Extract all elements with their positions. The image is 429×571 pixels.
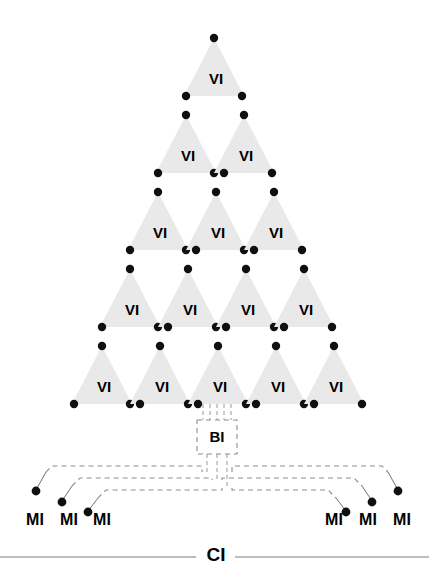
vertex-dot-right xyxy=(298,246,306,254)
bi-label: BI xyxy=(210,428,225,445)
vertex-dot-apex xyxy=(184,265,192,273)
triangle-shape xyxy=(158,269,218,327)
vi-triangle-label: VI xyxy=(329,378,343,395)
vi-triangle[interactable]: VI xyxy=(304,342,366,408)
vertex-dot-apex xyxy=(242,265,250,273)
mi-node[interactable]: MI xyxy=(84,508,111,529)
vi-triangle[interactable]: VI xyxy=(158,265,220,331)
vi-triangle[interactable]: VI xyxy=(70,342,134,408)
vi-triangle[interactable]: VI xyxy=(126,188,190,254)
mi-label: MI xyxy=(393,511,411,528)
vi-triangle-label: VI xyxy=(181,147,195,164)
mi-node[interactable]: MI xyxy=(58,498,78,529)
vi-triangle-label: VI xyxy=(183,301,197,318)
vertex-dot-left xyxy=(252,400,260,408)
mi-node[interactable]: MI xyxy=(325,508,350,529)
triangle-shape xyxy=(156,115,216,173)
vertex-dot-apex xyxy=(270,188,278,196)
vi-to-bi-stubs xyxy=(203,404,231,420)
hierarchy-diagram-canvas: VI VI VI xyxy=(0,0,429,571)
vi-triangle-label: VI xyxy=(239,147,253,164)
vi-pyramid: VI VI VI xyxy=(70,34,366,408)
bus-route-middle-left xyxy=(72,478,212,486)
mi-dot xyxy=(32,487,41,496)
vi-triangle[interactable]: VI xyxy=(246,342,308,408)
bus-route-middle-right xyxy=(222,478,362,486)
mi-node[interactable]: MI xyxy=(393,487,411,529)
vertex-dot-apex xyxy=(126,265,134,273)
vi-triangle[interactable]: VI xyxy=(244,188,306,254)
vertex-dot-left xyxy=(220,169,228,177)
vi-triangle[interactable]: VI xyxy=(182,34,246,100)
triangle-shape xyxy=(188,346,248,404)
vertex-dot-left xyxy=(182,92,190,100)
mi-label: MI xyxy=(325,511,343,528)
vi-triangle-label: VI xyxy=(153,224,167,241)
vi-triangle[interactable]: VI xyxy=(154,111,218,177)
vertex-dot-apex xyxy=(240,111,248,119)
vertex-dot-left xyxy=(310,400,318,408)
mi-node[interactable]: MI xyxy=(26,487,44,529)
vi-triangle[interactable]: VI xyxy=(188,342,250,408)
vertex-dot-apex xyxy=(214,342,222,350)
mi-dot xyxy=(368,498,377,507)
vi-triangle-label: VI xyxy=(209,70,223,87)
vertex-dot-left xyxy=(280,323,288,331)
vi-triangle[interactable]: VI xyxy=(216,265,278,331)
vertex-dot-left xyxy=(250,246,258,254)
vi-triangle[interactable]: VI xyxy=(130,342,192,408)
vertex-dot-apex xyxy=(210,34,218,42)
vertex-dot-left xyxy=(222,323,230,331)
mi-node[interactable]: MI xyxy=(359,498,377,529)
triangle-shape xyxy=(244,192,304,250)
vertex-dot-left xyxy=(154,169,162,177)
vertex-dot-right xyxy=(268,169,276,177)
vi-triangle[interactable]: VI xyxy=(274,265,336,331)
vertex-dot-right xyxy=(358,400,366,408)
vertex-dot-apex xyxy=(330,342,338,350)
vertex-dot-left xyxy=(70,400,78,408)
vertex-dot-apex xyxy=(272,342,280,350)
vi-triangle-label: VI xyxy=(241,301,255,318)
triangle-shape xyxy=(72,346,132,404)
vi-triangle[interactable]: VI xyxy=(98,265,162,331)
triangle-shape xyxy=(216,269,276,327)
vertex-dot-left xyxy=(164,323,172,331)
triangle-shape xyxy=(186,192,246,250)
ci-baseline: CI xyxy=(0,544,429,565)
vertex-dot-apex xyxy=(300,265,308,273)
ci-label: CI xyxy=(207,544,226,565)
mi-group-left: MI MI MI xyxy=(26,487,111,529)
mi-label: MI xyxy=(60,511,78,528)
vi-triangle[interactable]: VI xyxy=(186,188,248,254)
vi-triangle-label: VI xyxy=(271,378,285,395)
pyramid-row-3: VI VI VI xyxy=(126,188,306,254)
triangle-shape xyxy=(246,346,306,404)
mi-label: MI xyxy=(26,511,44,528)
vertex-dot-apex xyxy=(154,188,162,196)
bi-to-bus-stubs xyxy=(207,454,227,488)
pyramid-row-1: VI xyxy=(182,34,246,100)
pyramid-row-2: VI VI xyxy=(154,111,276,177)
vertex-dot-apex xyxy=(156,342,164,350)
vertex-dot-right xyxy=(328,323,336,331)
triangle-shape xyxy=(304,346,364,404)
vi-triangle-label: VI xyxy=(299,301,313,318)
triangle-shape xyxy=(184,38,244,96)
vi-triangle-label: VI xyxy=(269,224,283,241)
mi-dot xyxy=(342,508,351,517)
triangle-shape xyxy=(100,269,160,327)
vi-triangle-label: VI xyxy=(97,378,111,395)
bus-route-outer-left xyxy=(46,466,202,472)
triangle-shape xyxy=(274,269,334,327)
pyramid-row-5: VI VI VI xyxy=(70,342,366,408)
mi-group-right: MI MI MI xyxy=(325,487,411,529)
mi-label: MI xyxy=(93,511,111,528)
vertex-dot-left xyxy=(136,400,144,408)
vi-triangle[interactable]: VI xyxy=(214,111,276,177)
bi-node[interactable]: BI xyxy=(197,420,237,454)
triangle-shape xyxy=(214,115,274,173)
mi-label: MI xyxy=(359,511,377,528)
bus-route-outer-right xyxy=(232,466,388,472)
bus-route-inner-right xyxy=(232,488,336,498)
